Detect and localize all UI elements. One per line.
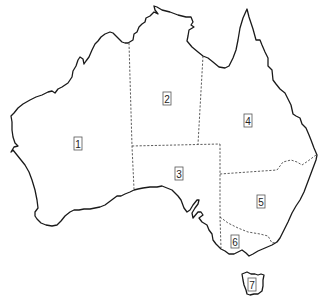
australia-map: 1 2 3 4 5 6 7: [0, 0, 323, 301]
region-number: 5: [258, 197, 264, 208]
region-label-2[interactable]: 2: [163, 92, 171, 105]
region-number: 1: [75, 139, 81, 150]
mainland-coastline: [11, 6, 317, 256]
region-label-4[interactable]: 4: [244, 114, 252, 127]
region-label-7[interactable]: 7: [248, 278, 256, 291]
region-label-5[interactable]: 5: [257, 195, 265, 208]
region-number: 3: [176, 169, 182, 180]
region-label-3[interactable]: 3: [175, 167, 183, 180]
region-number: 7: [249, 280, 255, 291]
region-number: 6: [232, 237, 238, 248]
region-number: 2: [164, 94, 170, 105]
region-number: 4: [245, 116, 251, 127]
region-label-1[interactable]: 1: [74, 137, 82, 150]
region-label-6[interactable]: 6: [231, 235, 239, 248]
